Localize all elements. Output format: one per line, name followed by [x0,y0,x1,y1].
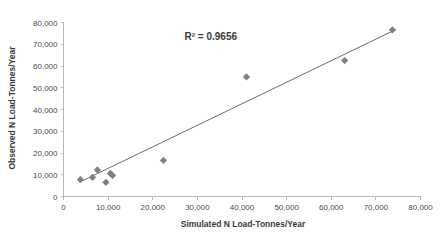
x-tick-label: 30,000 [185,203,210,212]
x-tick-label: 10,000 [96,203,121,212]
y-axis-title: Observed N Load-Tonnes/Year [7,46,17,170]
y-tick-label: 10,000 [33,171,58,180]
data-point-marker [341,57,348,64]
x-tick-label: 40,000 [230,203,255,212]
x-tick-label: 70,000 [364,203,389,212]
y-tick-label: 20,000 [33,149,58,158]
data-point-marker [243,73,250,80]
y-tick-label: 30,000 [33,127,58,136]
x-axis-tick-labels: 010,00020,00030,00040,00050,00060,00070,… [61,203,433,212]
y-tick-label: 50,000 [33,84,58,93]
y-tick-label: 70,000 [33,40,58,49]
y-tick-label: 80,000 [33,19,58,28]
x-tick-label: 0 [61,203,66,212]
trendline [79,29,396,182]
x-axis-title: Simulated N Load-Tonnes/Year [181,219,306,229]
data-point-marker [160,157,167,164]
x-tick-label: 50,000 [274,203,299,212]
scatter-chart: 010,00020,00030,00040,00050,00060,00070,… [0,0,446,235]
data-point-marker [102,179,109,186]
x-tick-label: 20,000 [141,203,166,212]
data-point-marker [77,176,84,183]
y-tick-label: 60,000 [33,62,58,71]
chart-canvas: 010,00020,00030,00040,00050,00060,00070,… [0,0,446,235]
y-tick-label: 0 [53,193,58,202]
y-axis-tick-labels: 010,00020,00030,00040,00050,00060,00070,… [33,19,58,202]
x-tick-label: 80,000 [408,203,433,212]
x-tick-label: 60,000 [319,203,344,212]
y-tick-label: 40,000 [33,106,58,115]
r-squared-annotation: R² = 0.9656 [184,31,237,42]
